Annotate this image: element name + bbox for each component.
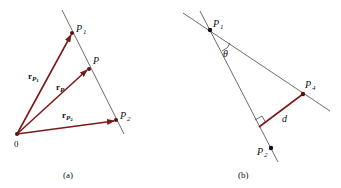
label-p1: P1	[212, 18, 224, 31]
line-p1-p2	[200, 11, 278, 162]
distance-segment	[259, 94, 303, 127]
line-p1-p4	[183, 13, 330, 111]
point-origin	[15, 132, 19, 136]
vector-r-p2	[17, 121, 114, 134]
label-origin: 0	[14, 139, 19, 149]
caption-a: (a)	[63, 170, 73, 180]
label-d: d	[282, 113, 288, 124]
right-angle-marker	[255, 116, 266, 123]
label-r-p1: rP1	[28, 71, 39, 83]
point-p2	[269, 146, 273, 150]
label-theta: θ	[223, 48, 228, 59]
figure-b: P1 P4 P2 θ d (b)	[183, 11, 330, 180]
point-p2	[114, 118, 118, 122]
label-p1: P1	[75, 23, 87, 36]
diagram-canvas: P1 P P2 0 rP1 rP rP2 (a) P1 P4 P2 θ d (b…	[0, 0, 341, 188]
label-p2: P2	[256, 146, 268, 159]
point-p1	[70, 31, 74, 35]
figure-a: P1 P P2 0 rP1 rP rP2 (a)	[14, 10, 131, 180]
line-p1-p2	[62, 10, 124, 134]
label-r-p: rP	[56, 82, 65, 94]
label-r-p2: rP2	[62, 110, 73, 122]
label-p2: P2	[119, 110, 131, 123]
point-p1	[208, 28, 212, 32]
point-p	[87, 67, 91, 71]
label-p4: P4	[304, 79, 316, 92]
label-p: P	[92, 55, 99, 66]
point-p4	[301, 92, 305, 96]
caption-b: (b)	[238, 170, 249, 180]
